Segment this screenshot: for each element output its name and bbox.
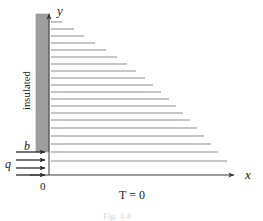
wall-height-label-b: b: [24, 139, 30, 153]
figure-container: y x 0 b q T = 0 insulated Fig. 4.4: [0, 0, 263, 221]
y-axis-label: y: [55, 3, 63, 18]
origin-label: 0: [40, 180, 46, 192]
insulated-wall-label: insulated: [21, 71, 32, 110]
heat-conduction-diagram: y x 0 b q T = 0 insulated Fig. 4.4: [0, 0, 263, 221]
boundary-temperature-label: T = 0: [119, 188, 145, 202]
heat-flux-arrows: [16, 152, 45, 175]
figure-caption: Fig. 4.4: [103, 211, 131, 221]
isotherm-lines: [51, 22, 227, 161]
x-axis-label: x: [244, 167, 251, 182]
insulated-wall-block: [36, 14, 49, 152]
heat-flux-label-q: q: [5, 157, 11, 171]
